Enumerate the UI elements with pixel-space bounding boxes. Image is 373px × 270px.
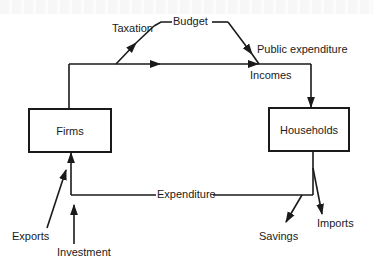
imports-arrow: [313, 168, 322, 214]
expenditure-label: Expenditure: [157, 189, 216, 200]
households-label: Households: [280, 124, 338, 136]
incomes-label: Incomes: [250, 70, 292, 81]
firms-label: Firms: [56, 125, 84, 137]
public-expenditure-label: Public expenditure: [257, 44, 348, 55]
imports-label: Imports: [317, 218, 354, 229]
firms-box: Firms: [28, 108, 112, 153]
taxation-label: Taxation: [112, 23, 153, 34]
budget-label: Budget: [173, 16, 208, 27]
exports-arrow: [47, 170, 66, 228]
savings-label: Savings: [259, 231, 298, 242]
exports-label: Exports: [12, 231, 49, 242]
taxation-to-budget-line: [154, 22, 172, 26]
taxation-arrow: [116, 43, 136, 64]
households-box: Households: [268, 107, 350, 152]
public-expenditure-arrow: [228, 22, 252, 54]
investment-label: Investment: [57, 247, 111, 258]
savings-arrow: [286, 195, 302, 222]
public-expenditure-line: [252, 54, 259, 64]
